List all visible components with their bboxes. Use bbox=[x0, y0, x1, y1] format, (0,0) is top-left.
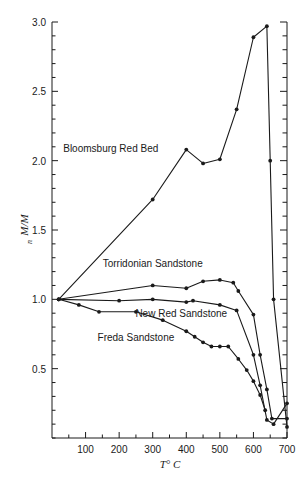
data-point bbox=[218, 345, 222, 349]
series-label-freda-sandstone: Freda Sandstone bbox=[98, 332, 175, 343]
y-tick-label-1.5: 1.5 bbox=[32, 225, 46, 236]
x-tick-label-700: 700 bbox=[279, 444, 296, 455]
data-point bbox=[235, 107, 239, 111]
data-point bbox=[252, 313, 256, 317]
data-point bbox=[236, 289, 240, 293]
data-point bbox=[258, 353, 262, 357]
x-tick-label-100: 100 bbox=[77, 444, 94, 455]
data-point bbox=[184, 286, 188, 290]
data-point bbox=[184, 148, 188, 152]
data-point bbox=[201, 162, 205, 166]
data-point bbox=[265, 388, 269, 392]
data-point bbox=[184, 300, 188, 304]
data-point bbox=[151, 198, 155, 202]
data-point bbox=[252, 353, 256, 357]
y-tick-label-2.5: 2.5 bbox=[32, 86, 46, 97]
data-series-group bbox=[57, 24, 289, 429]
y-axis-title-subscript: n bbox=[25, 240, 34, 244]
data-point bbox=[285, 425, 289, 429]
data-point bbox=[272, 422, 276, 426]
data-point bbox=[245, 368, 249, 372]
chart-figure: 1002003004005006007000.51.01.52.02.53.0 … bbox=[0, 0, 303, 482]
x-tick-label-200: 200 bbox=[111, 444, 128, 455]
data-point bbox=[117, 299, 121, 303]
x-tick-label-600: 600 bbox=[245, 444, 262, 455]
data-point bbox=[252, 379, 256, 383]
data-point bbox=[236, 357, 240, 361]
data-point bbox=[258, 393, 262, 397]
data-point bbox=[285, 417, 289, 421]
series-label-bloomsburg-red-bed: Bloomsburg Red Bed bbox=[63, 143, 158, 154]
data-point bbox=[218, 303, 222, 307]
x-axis-title: T° C bbox=[160, 458, 181, 470]
data-point bbox=[268, 159, 272, 163]
y-tick-label-3.0: 3.0 bbox=[32, 17, 46, 28]
y-axis-title: M/M bbox=[18, 213, 30, 236]
data-point bbox=[77, 303, 81, 307]
data-point bbox=[218, 157, 222, 161]
data-point bbox=[201, 340, 205, 344]
data-point bbox=[151, 297, 155, 301]
data-point bbox=[151, 284, 155, 288]
y-tick-label-2.0: 2.0 bbox=[32, 156, 46, 167]
data-point bbox=[218, 278, 222, 282]
data-point bbox=[210, 345, 214, 349]
data-point bbox=[201, 279, 205, 283]
data-point bbox=[191, 299, 195, 303]
x-tick-label-400: 400 bbox=[178, 444, 195, 455]
data-point bbox=[235, 309, 239, 313]
data-point bbox=[265, 418, 269, 422]
y-tick-label-0.5: 0.5 bbox=[32, 364, 46, 375]
series-label-group: Bloomsburg Red BedTorridonian SandstoneN… bbox=[63, 143, 227, 343]
y-tick-label-1.0: 1.0 bbox=[32, 294, 46, 305]
x-tick-label-300: 300 bbox=[144, 444, 161, 455]
data-point bbox=[184, 329, 188, 333]
data-point bbox=[258, 383, 262, 387]
magnetization-vs-temperature-chart: 1002003004005006007000.51.01.52.02.53.0 … bbox=[0, 0, 303, 482]
data-point bbox=[285, 401, 289, 405]
data-point bbox=[231, 281, 235, 285]
series-label-torridonian-sandstone: Torridonian Sandstone bbox=[103, 258, 204, 269]
data-point bbox=[226, 345, 230, 349]
data-point bbox=[270, 417, 274, 421]
tick-group: 1002003004005006007000.51.01.52.02.53.0 bbox=[32, 17, 296, 455]
series-label-new-red-sandstone: New Red Sandstone bbox=[135, 308, 227, 319]
data-point bbox=[265, 24, 269, 28]
data-point bbox=[97, 310, 101, 314]
data-point bbox=[252, 35, 256, 39]
series-line-bloomsburg-red-bed bbox=[59, 26, 287, 427]
data-point bbox=[272, 297, 276, 301]
x-tick-label-500: 500 bbox=[212, 444, 229, 455]
data-point bbox=[57, 297, 61, 301]
axis-group bbox=[52, 22, 287, 438]
data-point bbox=[263, 408, 267, 412]
data-point bbox=[193, 335, 197, 339]
